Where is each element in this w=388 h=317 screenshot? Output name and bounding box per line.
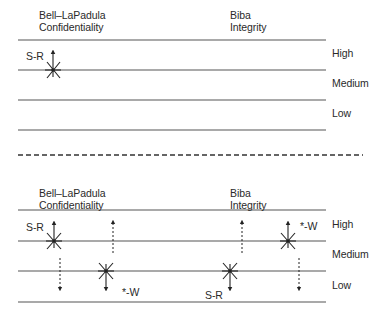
bottom-level-medium: Medium (332, 248, 369, 260)
bottom-level-low: Low (332, 279, 351, 291)
top-blp-header: Bell–LaPadula Confidentiality (39, 9, 105, 33)
top-level-high: High (332, 47, 353, 59)
biba-sr-label: S-R (205, 289, 223, 301)
top-level-medium: Medium (332, 77, 369, 89)
top-sr-blocked-star-icon (45, 52, 61, 78)
bottom-blp-header-line1: Bell–LaPadula (39, 187, 105, 199)
top-sr-label: S-R (26, 50, 44, 62)
diagram-canvas (0, 0, 388, 317)
bottom-blp-header-line2: Confidentiality (39, 199, 105, 211)
top-level-low: Low (332, 107, 351, 119)
biba-w-label: *-W (300, 220, 317, 232)
bottom-biba-header-line2: Integrity (230, 199, 266, 211)
top-biba-header: Biba Integrity (230, 9, 266, 33)
bottom-biba-header-line1: Biba (230, 187, 266, 199)
blp-w-blocked-star-icon (98, 263, 114, 289)
top-blp-header-line2: Confidentiality (39, 21, 105, 33)
biba-w-blocked-star-icon (280, 223, 296, 249)
blp-w-label: *-W (122, 286, 139, 298)
biba-sr-blocked-star-icon (222, 263, 238, 289)
top-blp-header-line1: Bell–LaPadula (39, 9, 105, 21)
security-models-diagram: Bell–LaPadula Confidentiality Biba Integ… (0, 0, 388, 317)
top-level-lines (18, 40, 326, 130)
bottom-biba-header: Biba Integrity (230, 187, 266, 211)
top-biba-header-line1: Biba (230, 9, 266, 21)
blp-sr-label: S-R (26, 221, 44, 233)
bottom-blp-header: Bell–LaPadula Confidentiality (39, 187, 105, 211)
blp-sr-blocked-star-icon (46, 223, 62, 249)
top-biba-header-line2: Integrity (230, 21, 266, 33)
bottom-level-lines (18, 210, 326, 302)
bottom-level-high: High (332, 218, 353, 230)
